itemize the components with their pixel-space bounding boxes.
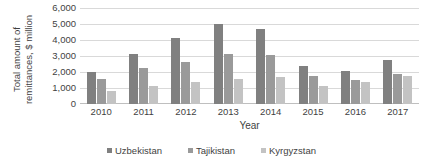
y-axis-tick-label: 1,000 — [52, 83, 76, 93]
bar-kyrgyzstan-2010[interactable] — [107, 91, 116, 104]
y-axis-title-line1: Total amount of — [12, 27, 23, 92]
bar-kyrgyzstan-2015[interactable] — [319, 86, 328, 104]
y-axis-tick-label: 6,000 — [52, 3, 76, 13]
y-axis-tick-label: 5,000 — [52, 19, 76, 29]
legend: UzbekistanTajikistanKyrgyzstan — [0, 145, 423, 156]
bar-tajikistan-2015[interactable] — [309, 76, 318, 104]
bar-uzbekistan-2016[interactable] — [341, 71, 350, 104]
bar-group — [165, 8, 207, 104]
bar-group — [250, 8, 292, 104]
bar-tajikistan-2014[interactable] — [266, 55, 275, 104]
y-axis-title: Total amount of remittances, $ million — [2, 0, 44, 118]
bar-kyrgyzstan-2013[interactable] — [234, 79, 243, 104]
y-axis-tick-label: 3,000 — [52, 51, 76, 61]
y-axis-title-line2: remittances, $ million — [23, 14, 35, 103]
bar-kyrgyzstan-2017[interactable] — [403, 76, 412, 104]
x-axis-tick-label: 2013 — [207, 106, 249, 120]
y-axis-tick-label: 0 — [71, 99, 76, 109]
legend-label: Kyrgyzstan — [269, 145, 316, 156]
bar-uzbekistan-2013[interactable] — [214, 24, 223, 104]
bar-tajikistan-2012[interactable] — [181, 62, 190, 104]
legend-label: Uzbekistan — [115, 145, 162, 156]
bar-group — [80, 8, 122, 104]
bar-kyrgyzstan-2016[interactable] — [361, 82, 370, 104]
x-axis-tick-label: 2014 — [250, 106, 292, 120]
bar-tajikistan-2017[interactable] — [393, 74, 402, 104]
bar-tajikistan-2013[interactable] — [224, 54, 233, 104]
bars-layer — [80, 8, 419, 104]
bar-group — [292, 8, 334, 104]
x-axis-tick-label: 2015 — [292, 106, 334, 120]
plot-area — [80, 8, 419, 104]
x-axis-title: Year — [80, 120, 419, 132]
x-axis-tick-labels: 20102011201220132014201520162017 — [80, 106, 419, 120]
bar-group — [334, 8, 376, 104]
bar-kyrgyzstan-2011[interactable] — [149, 86, 158, 104]
bar-uzbekistan-2017[interactable] — [383, 60, 392, 104]
legend-swatch-icon — [261, 148, 266, 153]
x-axis-tick-label: 2017 — [377, 106, 419, 120]
y-axis-tick-label: 4,000 — [52, 35, 76, 45]
legend-item-uzbekistan[interactable]: Uzbekistan — [107, 145, 162, 156]
x-axis-tick-label: 2016 — [334, 106, 376, 120]
bar-uzbekistan-2010[interactable] — [87, 72, 96, 104]
y-axis-tick-labels: 01,0002,0003,0004,0005,0006,000 — [44, 8, 76, 104]
legend-item-tajikistan[interactable]: Tajikistan — [188, 145, 235, 156]
bar-uzbekistan-2015[interactable] — [299, 66, 308, 104]
bar-kyrgyzstan-2014[interactable] — [276, 77, 285, 104]
bar-chart: Total amount of remittances, $ million 0… — [0, 0, 423, 167]
legend-item-kyrgyzstan[interactable]: Kyrgyzstan — [261, 145, 316, 156]
y-axis-tick-label: 2,000 — [52, 67, 76, 77]
bar-tajikistan-2010[interactable] — [97, 79, 106, 104]
legend-swatch-icon — [107, 148, 112, 153]
bar-tajikistan-2011[interactable] — [139, 68, 148, 104]
bar-tajikistan-2016[interactable] — [351, 80, 360, 104]
bar-group — [377, 8, 419, 104]
x-axis-tick-label: 2011 — [122, 106, 164, 120]
legend-swatch-icon — [188, 148, 193, 153]
bar-uzbekistan-2014[interactable] — [256, 29, 265, 104]
bar-group — [122, 8, 164, 104]
bar-kyrgyzstan-2012[interactable] — [191, 82, 200, 104]
x-axis-tick-label: 2010 — [80, 106, 122, 120]
bar-uzbekistan-2012[interactable] — [171, 38, 180, 104]
legend-label: Tajikistan — [196, 145, 235, 156]
x-axis-tick-label: 2012 — [165, 106, 207, 120]
bar-uzbekistan-2011[interactable] — [129, 54, 138, 104]
bar-group — [207, 8, 249, 104]
